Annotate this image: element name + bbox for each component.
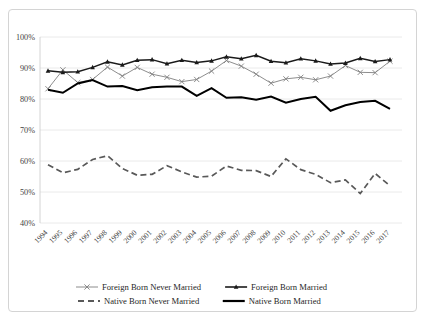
x-axis-tick-label: 2000 <box>122 228 139 245</box>
x-axis-tick-label: 1999 <box>107 228 124 245</box>
x-marker <box>105 64 110 69</box>
x-axis-tick-label: 2010 <box>270 228 287 245</box>
x-marker <box>254 72 259 77</box>
x-axis-tick-label: 2006 <box>211 228 228 245</box>
x-axis-tick-label: 1997 <box>77 228 94 245</box>
x-axis-tick-label: 1998 <box>92 228 109 245</box>
y-axis-tick-label: 60% <box>20 157 35 166</box>
legend-line-sample <box>76 284 98 289</box>
legend-label: Foreign Born Married <box>251 282 328 292</box>
x-axis-tick-label: 1995 <box>47 228 64 245</box>
y-axis-tick-label: 50% <box>20 188 35 197</box>
x-axis-tick-label: 2014 <box>330 228 347 245</box>
y-axis-tick-label: 90% <box>20 64 35 73</box>
legend-label: Native Born Never Married <box>104 296 200 306</box>
chart-legend: Foreign Born Never MarriedForeign Born M… <box>76 282 328 306</box>
x-axis-tick-label: 2001 <box>136 228 153 245</box>
data-series-layer <box>45 53 392 194</box>
x-marker <box>135 65 140 70</box>
y-axis-tick-label: 100% <box>16 33 35 42</box>
x-axis-tick-label: 2012 <box>300 228 317 245</box>
x-axis-tick-labels: 1994199519961997199819992000200120022003… <box>32 228 391 245</box>
legend-label: Native Born Married <box>249 296 322 306</box>
series-line <box>48 156 390 194</box>
x-axis-tick-label: 2009 <box>255 228 272 245</box>
chart-canvas: 40%50%60%70%80%90%100% 19941995199619971… <box>0 0 427 322</box>
x-marker <box>268 81 273 86</box>
series-line <box>48 80 390 111</box>
x-axis-tick-label: 2004 <box>181 228 198 245</box>
x-marker <box>120 73 125 78</box>
y-axis-tick-label: 40% <box>20 219 35 228</box>
x-axis-tick-label: 2002 <box>151 228 168 245</box>
x-axis-tick-label: 2008 <box>240 228 257 245</box>
y-axis-tick-label: 70% <box>20 126 35 135</box>
x-axis-tick-label: 2015 <box>345 228 362 245</box>
y-axis-tick-label: 80% <box>20 95 35 104</box>
x-axis-tick-label: 2013 <box>315 228 332 245</box>
x-axis-tick-label: 2016 <box>359 228 376 245</box>
legend-label: Foreign Born Never Married <box>102 282 202 292</box>
x-axis-tick-label: 2003 <box>166 228 183 245</box>
legend-line-sample <box>225 284 247 288</box>
x-axis-tick-label: 2007 <box>226 228 243 245</box>
x-axis-tick-label: 2005 <box>196 228 213 245</box>
x-marker <box>224 58 229 63</box>
y-axis-tick-labels: 40%50%60%70%80%90%100% <box>16 33 35 228</box>
x-axis-tick-label: 2011 <box>285 228 302 245</box>
x-axis-tick-label: 1996 <box>62 228 79 245</box>
x-axis-tick-label: 1994 <box>32 228 49 245</box>
x-axis-tick-label: 2017 <box>374 228 391 245</box>
x-marker <box>209 69 214 74</box>
